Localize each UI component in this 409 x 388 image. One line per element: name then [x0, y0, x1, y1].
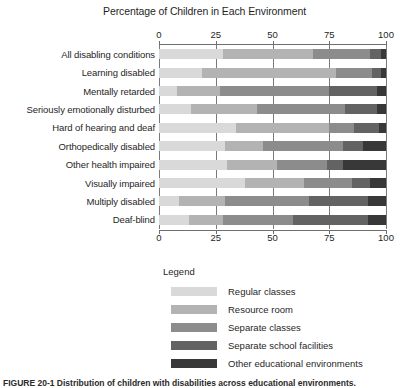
legend-label: Resource room — [228, 304, 293, 315]
bar-row — [159, 178, 386, 188]
bar-segment — [189, 215, 223, 225]
category-label-5: Orthopedically disabled — [0, 141, 155, 152]
legend-label: Other educational environments — [228, 358, 363, 369]
bar-segment — [372, 68, 381, 78]
bar-segment — [159, 215, 189, 225]
legend-swatch-icon — [171, 341, 217, 350]
bar-segment — [381, 49, 386, 59]
category-label-6: Other health impaired — [0, 159, 155, 170]
bar-segment — [345, 104, 377, 114]
axis-tick-mark — [329, 230, 330, 234]
plot-area — [159, 45, 386, 229]
bar-segment — [379, 123, 386, 133]
category-label-4: Hard of hearing and deaf — [0, 122, 155, 133]
legend-items: Regular classesResource roomSeparate cla… — [163, 284, 403, 371]
x-tick-label-50-top: 50 — [267, 29, 278, 40]
legend-label: Separate school facilities — [228, 340, 333, 351]
bar-segment — [343, 160, 386, 170]
bar-segment — [179, 196, 224, 206]
legend: Legend Regular classesResource roomSepar… — [163, 266, 403, 374]
bar-segment — [202, 68, 336, 78]
bar-segment — [263, 141, 342, 151]
category-label-3: Seriously emotionally disturbed — [0, 104, 155, 115]
figure-caption: FIGURE 20-1 Distribution of children wit… — [3, 378, 408, 388]
bar-segment — [370, 178, 386, 188]
bar-segment — [159, 104, 191, 114]
category-label-8: Multiply disabled — [0, 196, 155, 207]
category-label-2: Mentally retarded — [0, 86, 155, 97]
bar-segment — [343, 141, 363, 151]
gridline-100 — [386, 45, 387, 229]
bar-segment — [304, 178, 352, 188]
legend-label: Separate classes — [228, 322, 301, 333]
legend-item-0: Regular classes — [163, 284, 403, 299]
legend-swatch-icon — [171, 287, 217, 296]
bar-segment — [159, 141, 225, 151]
legend-item-1: Resource room — [163, 302, 403, 317]
axis-tick-mark — [216, 230, 217, 234]
x-tick-label-25-top: 25 — [210, 29, 221, 40]
bar-row — [159, 49, 386, 59]
legend-title: Legend — [163, 266, 403, 277]
bar-segment — [159, 196, 179, 206]
bar-row — [159, 86, 386, 96]
bar-segment — [293, 215, 368, 225]
bar-segment — [191, 104, 257, 114]
bar-segment — [236, 123, 329, 133]
legend-swatch-icon — [171, 305, 217, 314]
chart-title: Percentage of Children in Each Environme… — [0, 5, 409, 17]
axis-tick-mark — [386, 230, 387, 234]
category-label-1: Learning disabled — [0, 67, 155, 78]
bar-segment — [370, 49, 381, 59]
bar-segment — [354, 123, 379, 133]
axis-tick-mark — [273, 230, 274, 234]
bar-segment — [329, 86, 377, 96]
bar-segment — [257, 104, 346, 114]
category-label-7: Visually impaired — [0, 178, 155, 189]
bar-segment — [277, 160, 327, 170]
bar-segment — [159, 160, 227, 170]
x-tick-label-0-top: 0 — [156, 29, 161, 40]
bar-segment — [368, 215, 386, 225]
bar-segment — [352, 178, 370, 188]
bar-segment — [159, 49, 223, 59]
bar-segment — [245, 178, 304, 188]
axis-tick-mark — [386, 41, 387, 45]
bar-segment — [159, 68, 202, 78]
axis-tick-mark — [273, 41, 274, 45]
bar-row — [159, 123, 386, 133]
legend-item-3: Separate school facilities — [163, 338, 403, 353]
bar-row — [159, 215, 386, 225]
legend-item-2: Separate classes — [163, 320, 403, 335]
x-tick-label-100-top: 100 — [378, 29, 394, 40]
category-label-0: All disabling conditions — [0, 49, 155, 60]
bar-row — [159, 141, 386, 151]
bar-segment — [159, 178, 245, 188]
bar-segment — [329, 123, 354, 133]
bar-segment — [313, 49, 370, 59]
bar-segment — [177, 86, 220, 96]
bar-segment — [159, 123, 236, 133]
x-axis-ticks-top: 0255075100 — [159, 29, 386, 41]
bar-segment — [223, 215, 293, 225]
legend-label: Regular classes — [228, 286, 296, 297]
bar-row — [159, 68, 386, 78]
legend-swatch-icon — [171, 323, 217, 332]
bar-segment — [223, 49, 314, 59]
bar-segment — [225, 196, 309, 206]
bar-segment — [220, 86, 329, 96]
axis-tick-mark — [329, 41, 330, 45]
bar-segment — [327, 160, 343, 170]
axis-tick-mark — [216, 41, 217, 45]
bar-segment — [309, 196, 368, 206]
bar-segment — [377, 104, 386, 114]
axis-tick-mark — [159, 41, 160, 45]
bar-row — [159, 160, 386, 170]
bar-segment — [368, 196, 386, 206]
bar-row — [159, 196, 386, 206]
bar-segment — [381, 68, 386, 78]
bar-row — [159, 104, 386, 114]
axis-tick-mark — [159, 230, 160, 234]
bar-segment — [225, 141, 264, 151]
bar-segment — [336, 68, 372, 78]
